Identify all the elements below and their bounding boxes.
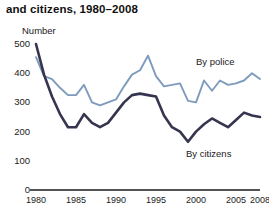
y-tick-label: 400 xyxy=(2,67,30,78)
plot-area xyxy=(0,0,269,220)
chart-figure: and citizens, 1980–2008 Number 010020030… xyxy=(0,0,269,220)
y-tick-label: 300 xyxy=(2,96,30,107)
y-tick-label: 0 xyxy=(2,184,30,195)
y-tick-label: 100 xyxy=(2,155,30,166)
x-tick-label: 1980 xyxy=(21,195,51,205)
x-tick-label: 1985 xyxy=(61,195,91,205)
x-tick-label: 1995 xyxy=(141,195,171,205)
chart-canvas xyxy=(0,0,269,220)
y-tick-label: 200 xyxy=(2,126,30,137)
x-tick-label: 1990 xyxy=(101,195,131,205)
y-tick-label: 500 xyxy=(2,38,30,49)
series-label-police: By police xyxy=(196,56,235,67)
series-label-citizens: By citizens xyxy=(186,148,231,159)
x-tick-label: 2008 xyxy=(245,195,269,205)
x-tick-label: 2000 xyxy=(181,195,211,205)
